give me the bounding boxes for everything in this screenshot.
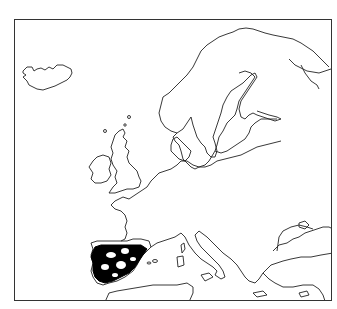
island-cyprus bbox=[299, 291, 309, 297]
island-balearic bbox=[153, 260, 158, 263]
island-hebrides bbox=[104, 130, 107, 133]
ireland-outline bbox=[89, 155, 111, 183]
anatolia-coast bbox=[263, 273, 325, 301]
mediterranean-north-coast bbox=[151, 231, 225, 279]
range-gap bbox=[121, 248, 129, 254]
island-balearic bbox=[147, 262, 151, 264]
range-gap bbox=[130, 257, 136, 261]
range-gap bbox=[112, 273, 118, 277]
range-gap bbox=[116, 261, 126, 269]
island-sicily bbox=[201, 273, 213, 281]
island-sardinia bbox=[177, 256, 184, 267]
island-crete bbox=[253, 291, 267, 297]
island-shetland bbox=[128, 116, 131, 119]
france-atlantic-coast bbox=[111, 197, 127, 241]
iceland-outline bbox=[23, 65, 72, 90]
europe-map bbox=[15, 20, 332, 301]
black-sea-coast bbox=[273, 225, 332, 261]
range-gap bbox=[106, 252, 116, 258]
map-frame bbox=[14, 19, 332, 301]
denmark-outline bbox=[171, 137, 191, 161]
range-gap bbox=[101, 264, 109, 270]
north-continental-coast bbox=[123, 141, 281, 199]
north-africa-coast bbox=[105, 283, 193, 301]
great-britain-outline bbox=[109, 129, 141, 193]
island-corsica bbox=[181, 243, 185, 253]
island-orkney bbox=[124, 124, 126, 126]
